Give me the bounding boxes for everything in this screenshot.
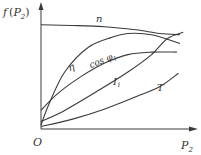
y-axis-label-paren-close: ) <box>25 6 29 19</box>
x-axis-label-sub: 2 <box>187 146 193 154</box>
performance-chart: f(P2) O P2 n η cos φ1 I1 T <box>0 0 201 155</box>
x-axis-arrow <box>189 127 198 132</box>
origin-label: O <box>33 136 42 149</box>
y-axis-label-f: f <box>2 6 9 19</box>
curve-label-cos-phi1: cos φ1 <box>88 50 118 71</box>
curve-label-n: n <box>96 13 102 24</box>
y-axis-label: f(P2) <box>2 6 30 21</box>
y-axis-arrow <box>39 2 44 10</box>
x-axis-label: P2 <box>180 139 193 154</box>
curve-label-eta: η <box>67 61 76 73</box>
curve-n <box>41 25 180 35</box>
